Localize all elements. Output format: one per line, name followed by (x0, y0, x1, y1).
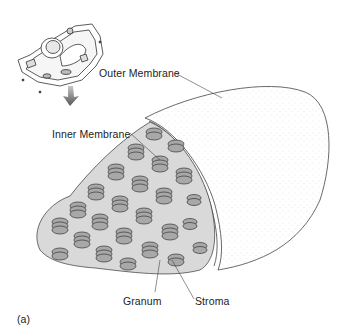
stroma-label: Stroma (195, 296, 229, 307)
panel-label: (a) (17, 314, 30, 325)
diagram-artwork (0, 0, 345, 331)
zoom-arrow-icon (63, 86, 79, 106)
inner-membrane-label: Inner Membrane (52, 129, 130, 140)
chloroplast-diagram: Outer Membrane Inner Membrane Granum Str… (0, 0, 345, 331)
outer-membrane-label: Outer Membrane (99, 68, 180, 79)
plant-cell-icon (18, 24, 103, 93)
outer-membrane-leader (175, 73, 222, 98)
granum-label: Granum (123, 296, 162, 307)
